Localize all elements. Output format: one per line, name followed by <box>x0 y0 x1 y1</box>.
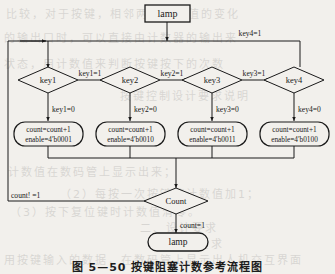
node-start-lamp: lamp <box>145 5 190 22</box>
edge-label-key4-true: key4=1 <box>239 29 262 38</box>
node-action-4-line2: enable=4′b0100 <box>271 135 318 144</box>
node-key4-label: key4 <box>286 75 303 85</box>
edge-label-count-true: count=1 <box>180 221 205 230</box>
node-key2: key2 <box>100 67 160 93</box>
node-action-1: count=count+1 enable=4′b0001 <box>14 122 83 146</box>
node-action-3: count=count+1 enable=4′b0011 <box>178 122 247 146</box>
edge-label-key3-true: key3=1 <box>243 69 266 78</box>
node-end-label: lamp <box>169 237 188 247</box>
node-action-3-line2: enable=4′b0011 <box>189 135 236 144</box>
node-key4: key4 <box>264 67 324 93</box>
flowchart-diagram: lamp key1 key2 key3 key4 count=count+1 e… <box>0 0 335 274</box>
edge-label-key4-false: key4=0 <box>298 105 321 114</box>
node-key1-label: key1 <box>40 75 57 85</box>
node-action-1-line1: count=count+1 <box>26 125 71 134</box>
node-key3: key3 <box>182 67 242 93</box>
edge-label-key2-false: key2=0 <box>134 105 157 114</box>
node-action-2-line1: count=count+1 <box>108 125 153 134</box>
figure-page: 比较，对于按键，相邻两次采样值的变化的输出口时，可以直接由计数器的输出来状态，用… <box>0 0 335 274</box>
node-key3-label: key3 <box>204 75 221 85</box>
figure-caption: 图 5—50 按键阻塞计数参考流程图 <box>0 258 335 274</box>
node-count-decision: Count <box>144 188 208 214</box>
node-action-1-line2: enable=4′b0001 <box>25 135 72 144</box>
edge-label-key1-false: key1=0 <box>52 105 75 114</box>
edge-label-key2-true: key2=1 <box>161 69 184 78</box>
edge-label-count-false: count! =1 <box>11 191 41 200</box>
node-action-4-line1: count=count+1 <box>272 125 317 134</box>
node-action-3-line1: count=count+1 <box>190 125 235 134</box>
node-end-lamp: lamp <box>148 233 208 251</box>
node-key2-label: key2 <box>122 75 139 85</box>
node-count-label: Count <box>166 196 187 206</box>
node-key1: key1 <box>18 67 78 93</box>
node-action-2: count=count+1 enable=4′b0010 <box>96 122 165 146</box>
edge-label-key3-false: key3=0 <box>216 105 239 114</box>
node-action-2-line2: enable=4′b0010 <box>107 135 154 144</box>
edge-label-key1-true: key1=1 <box>79 69 102 78</box>
node-start-label: lamp <box>158 8 178 19</box>
node-action-4: count=count+1 enable=4′b0100 <box>260 122 329 146</box>
